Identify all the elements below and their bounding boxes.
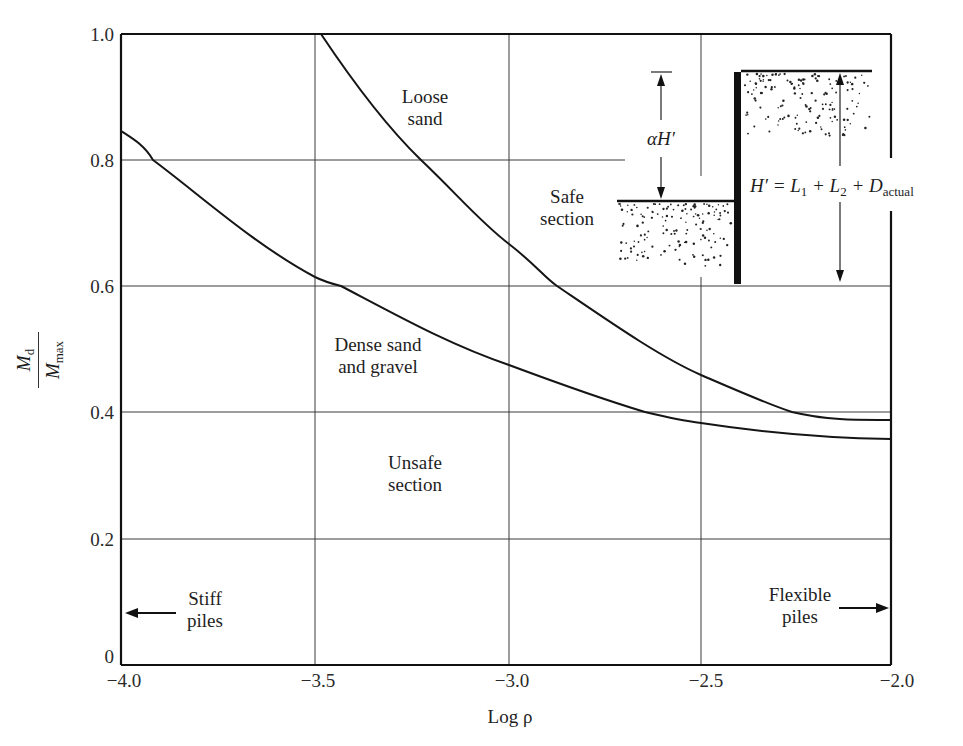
- label-unsafe-section: Unsafesection: [370, 452, 460, 496]
- y-tick-0.4: 0.4: [74, 402, 114, 424]
- x-axis-label: Log ρ: [470, 706, 550, 728]
- x-tick-minus-4.0: −4.0: [94, 670, 154, 692]
- y-tick-0.2: 0.2: [74, 529, 114, 551]
- x-tick-minus-2.0: −2.0: [867, 670, 927, 692]
- y-axis-label: Md Mmax: [14, 330, 70, 390]
- label-stiff-piles: Stiffpiles: [174, 588, 236, 632]
- label-h-equation: H′ = L1 + L2 + Dactual: [750, 175, 960, 197]
- x-tick-minus-3.0: −3.0: [482, 670, 542, 692]
- flexible-piles-arrow: [839, 603, 889, 613]
- label-loose-sand: Loosesand: [380, 86, 470, 130]
- gridlines: [121, 34, 891, 665]
- chart-canvas: [0, 0, 963, 746]
- y-tick-0: 0: [74, 646, 114, 668]
- stiff-piles-arrow: [125, 608, 176, 618]
- y-tick-0.8: 0.8: [74, 150, 114, 172]
- label-safe-section: Safesection: [525, 186, 609, 230]
- y-tick-1.0: 1.0: [74, 24, 114, 46]
- x-tick-minus-2.5: −2.5: [676, 670, 736, 692]
- y-tick-0.6: 0.6: [74, 276, 114, 298]
- x-tick-minus-3.5: −3.5: [288, 670, 348, 692]
- label-alpha-h: αH′: [630, 128, 692, 150]
- label-flexible-piles: Flexiblepiles: [760, 584, 840, 628]
- plot-frame: [121, 34, 891, 665]
- label-dense-sand-gravel: Dense sandand gravel: [318, 334, 438, 378]
